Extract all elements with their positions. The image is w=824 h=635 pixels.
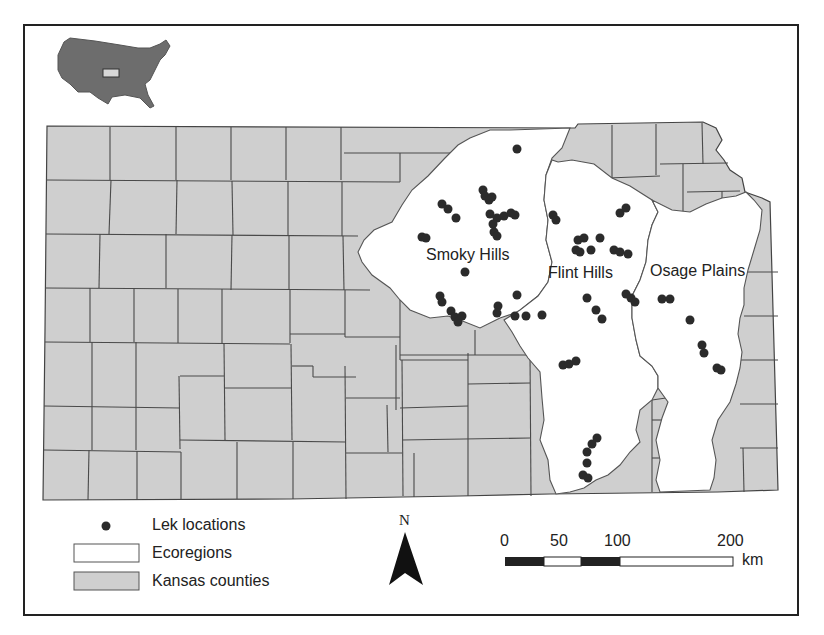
north-arrow-icon — [389, 532, 423, 585]
legend-ecoregions: Ecoregions — [152, 544, 232, 562]
kansas-map — [0, 0, 824, 635]
region-label-smoky-hills: Smoky Hills — [426, 246, 510, 264]
legend-kansas-counties: Kansas counties — [152, 572, 269, 590]
scale-unit: km — [742, 551, 763, 569]
scale-bar — [505, 557, 733, 566]
scale-tick-100: 100 — [604, 532, 631, 550]
scale-tick-0: 0 — [500, 532, 509, 550]
scale-tick-50: 50 — [550, 532, 568, 550]
legend-symbols — [74, 522, 139, 591]
usa-inset-map — [58, 38, 170, 108]
north-label: N — [399, 512, 410, 529]
region-label-flint-hills: Flint Hills — [548, 264, 613, 282]
legend-lek-locations: Lek locations — [152, 516, 245, 534]
region-label-osage-plains: Osage Plains — [650, 262, 745, 280]
scale-tick-200: 200 — [717, 532, 744, 550]
